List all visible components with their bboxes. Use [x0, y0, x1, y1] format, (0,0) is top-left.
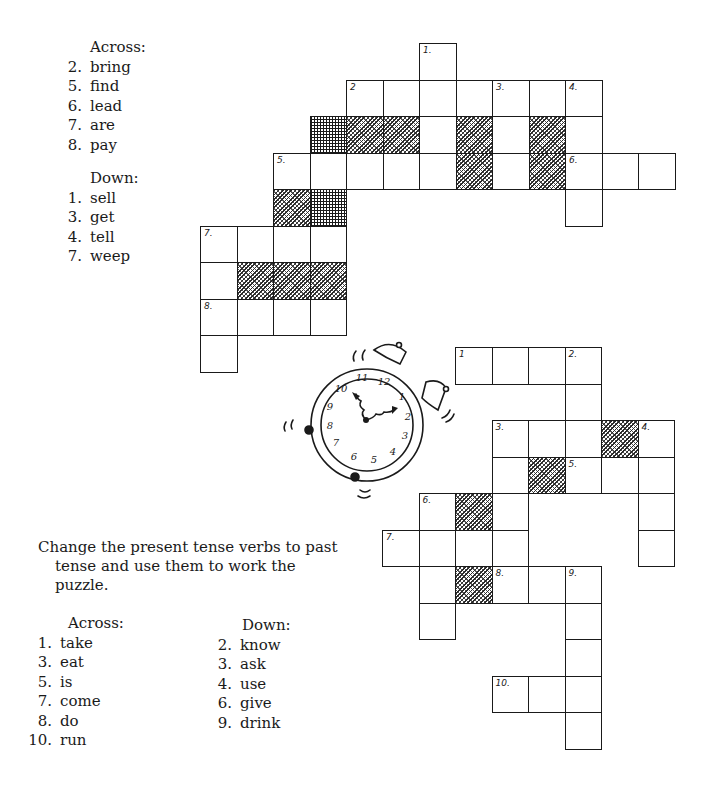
crossword-cell[interactable] [419, 153, 457, 191]
clue-number: 6. [62, 97, 90, 117]
clue-number: 8. [62, 136, 90, 156]
clue-number: 2. [200, 636, 240, 656]
clue-item: 2.bring [62, 58, 146, 78]
crossword-blocked-cell [310, 116, 348, 154]
cell-number-label: 3. [496, 82, 505, 92]
crossword-cell[interactable] [456, 80, 494, 118]
svg-text:10: 10 [335, 383, 348, 394]
bottom-down-clues: Down: 2.know 3.ask 4.use 6.give 9.drink [200, 616, 291, 733]
crossword-cell[interactable]: 7. [200, 226, 238, 264]
crossword-cell[interactable] [419, 116, 457, 154]
instructions-line: tense and use them to work the [38, 557, 338, 576]
crossword-cell[interactable] [237, 226, 275, 264]
cell-number-label: 4. [642, 422, 651, 432]
crossword-cell[interactable] [565, 420, 603, 458]
crossword-cell[interactable]: 4. [565, 80, 603, 118]
clue-number: 8. [20, 712, 60, 732]
crossword-cell[interactable]: 10. [492, 676, 530, 714]
crossword-cell[interactable] [383, 80, 421, 118]
crossword-cell[interactable] [601, 457, 639, 495]
clue-word: do [60, 712, 79, 732]
bottom-down-header: Down: [200, 616, 291, 636]
crossword-cell[interactable] [492, 457, 530, 495]
clue-item: 8.pay [62, 136, 146, 156]
crossword-cell[interactable]: 4. [638, 420, 676, 458]
svg-text:11: 11 [356, 372, 369, 383]
crossword-cell[interactable] [346, 153, 384, 191]
clue-number: 3. [62, 208, 90, 228]
crossword-cell[interactable] [638, 530, 676, 568]
crossword-cell[interactable] [638, 493, 676, 531]
crossword-cell[interactable]: 5. [565, 457, 603, 495]
crossword-cell[interactable] [455, 530, 493, 568]
instructions-line: puzzle. [38, 576, 338, 595]
crossword-cell[interactable] [565, 384, 603, 422]
clue-word: use [240, 675, 266, 695]
crossword-cell[interactable] [528, 566, 566, 604]
crossword-cell[interactable] [310, 153, 348, 191]
crossword-cell[interactable] [492, 347, 530, 385]
clue-word: get [90, 208, 115, 228]
crossword-cell[interactable] [565, 712, 603, 750]
crossword-cell[interactable]: 3. [492, 80, 530, 118]
crossword-cell[interactable] [492, 116, 530, 154]
crossword-cell[interactable] [492, 153, 530, 191]
crossword-blocked-cell [529, 116, 567, 154]
crossword-cell[interactable] [528, 420, 566, 458]
clue-word: give [240, 694, 272, 714]
cell-number-label: 7. [204, 228, 213, 238]
crossword-cell[interactable] [528, 676, 566, 714]
crossword-cell[interactable] [565, 116, 603, 154]
clue-number: 6. [200, 694, 240, 714]
crossword-cell[interactable]: 1. [419, 43, 457, 81]
crossword-blocked-cell [310, 262, 348, 300]
svg-text:1: 1 [399, 391, 405, 402]
clue-word: sell [90, 189, 116, 209]
crossword-cell[interactable] [565, 189, 603, 227]
crossword-cell[interactable] [638, 457, 676, 495]
clue-word: is [60, 673, 73, 693]
crossword-cell[interactable] [638, 153, 676, 191]
crossword-cell[interactable]: 2. [565, 347, 603, 385]
crossword-cell[interactable]: 7. [382, 530, 420, 568]
crossword-cell[interactable] [492, 493, 530, 531]
crossword-cell[interactable] [273, 226, 311, 264]
svg-text:6: 6 [351, 451, 358, 462]
crossword-cell[interactable]: 8. [492, 566, 530, 604]
crossword-cell[interactable] [383, 153, 421, 191]
crossword-cell[interactable] [200, 335, 238, 373]
clue-item: 3.eat [20, 653, 124, 673]
clue-number: 7. [62, 247, 90, 267]
crossword-cell[interactable] [492, 530, 530, 568]
crossword-cell[interactable] [237, 299, 275, 337]
crossword-cell[interactable] [419, 80, 457, 118]
clue-number: 7. [62, 116, 90, 136]
crossword-cell[interactable] [419, 603, 457, 641]
clue-item: 9.drink [200, 714, 291, 734]
top-down-header: Down: [62, 169, 146, 189]
crossword-cell[interactable] [200, 262, 238, 300]
crossword-cell[interactable] [419, 566, 457, 604]
crossword-cell[interactable] [602, 153, 640, 191]
crossword-cell[interactable] [565, 603, 603, 641]
crossword-cell[interactable]: 3. [492, 420, 530, 458]
clue-item: 2.know [200, 636, 291, 656]
clue-number: 3. [200, 655, 240, 675]
crossword-cell[interactable]: 2 [346, 80, 384, 118]
crossword-blocked-cell [273, 189, 311, 227]
svg-text:9: 9 [327, 401, 334, 412]
crossword-cell[interactable]: 9. [565, 566, 603, 604]
top-across-header: Across: [62, 38, 146, 58]
crossword-cell[interactable] [419, 530, 457, 568]
crossword-cell[interactable] [529, 80, 567, 118]
crossword-cell[interactable]: 6. [565, 153, 603, 191]
crossword-cell[interactable] [565, 676, 603, 714]
crossword-cell[interactable] [565, 639, 603, 677]
cell-number-label: 2. [569, 349, 578, 359]
instructions: Change the present tense verbs to past t… [38, 538, 338, 595]
crossword-cell[interactable]: 8. [200, 299, 238, 337]
crossword-cell[interactable] [310, 226, 348, 264]
crossword-cell[interactable]: 5. [273, 153, 311, 191]
clue-word: eat [60, 653, 84, 673]
crossword-cell[interactable] [528, 347, 566, 385]
